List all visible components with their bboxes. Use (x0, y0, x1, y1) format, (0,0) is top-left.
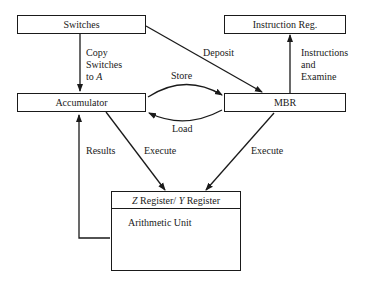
mbr-label: MBR (274, 97, 296, 108)
load-label: Load (172, 123, 193, 135)
copy-switches-label: Copy Switches to A (86, 47, 122, 83)
switches-label: Switches (63, 19, 99, 30)
zy-register-arithmetic-unit-node: Z Register/ Y Register Arithmetic Unit (111, 191, 241, 271)
store-label: Store (171, 70, 192, 82)
instructions-examine-label: Instructions and Examine (301, 47, 348, 83)
accumulator-node: Accumulator (17, 93, 146, 112)
results-label: Results (86, 145, 115, 157)
execute-right-label: Execute (251, 145, 283, 157)
arithmetic-unit-label: Arithmetic Unit (112, 209, 240, 228)
mbr-node: MBR (224, 93, 346, 112)
switches-node: Switches (17, 15, 146, 34)
zy-register-header: Z Register/ Y Register (112, 192, 240, 209)
register-text-1: Register/ (138, 195, 179, 206)
register-text-2: Register (184, 195, 220, 206)
accumulator-label: Accumulator (55, 97, 107, 108)
instruction-reg-label: Instruction Reg. (253, 19, 317, 30)
instruction-reg-node: Instruction Reg. (224, 15, 346, 34)
deposit-label: Deposit (203, 47, 234, 59)
execute-left-label: Execute (144, 145, 176, 157)
